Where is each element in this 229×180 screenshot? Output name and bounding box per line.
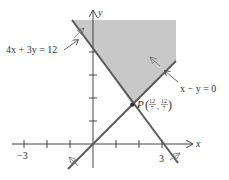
svg-text:P: P [136, 98, 144, 110]
svg-text:12: 12 [149, 98, 155, 104]
x-tick-label-3: 3 [159, 153, 164, 164]
pointer-arrow-icon [165, 71, 178, 82]
y-axis-label: y [97, 7, 103, 18]
svg-text:12: 12 [161, 98, 167, 104]
svg-text:): ) [168, 98, 172, 112]
intersection-point [130, 102, 134, 106]
point-label: P ( 12 7 , 12 7 ) [136, 98, 172, 112]
svg-text:,: , [157, 102, 159, 111]
line2-label: x − y = 0 [180, 83, 216, 94]
line1-label: 4x + 3y = 12 [6, 44, 57, 55]
shaded-region [72, 20, 176, 105]
feasible-region-graph: y x −3 3 4x + 3y = 12 x − y = 0 P ( 12 7… [0, 0, 229, 180]
pointer-arrow-icon [64, 40, 78, 50]
svg-text:7: 7 [151, 105, 154, 111]
x-axis-label: x [195, 138, 201, 149]
x-tick-label-neg3: −3 [17, 150, 28, 161]
svg-text:7: 7 [163, 105, 166, 111]
